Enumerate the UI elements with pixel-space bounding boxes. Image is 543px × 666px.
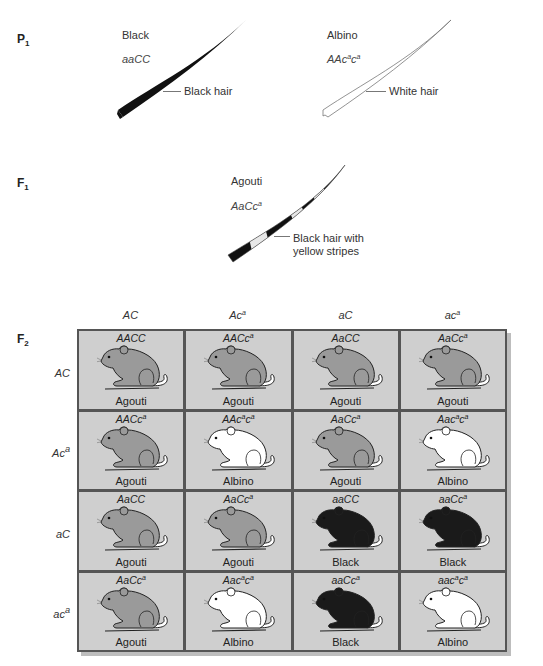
cell-phenotype: Agouti — [294, 395, 398, 407]
row-header-gamete-2: Aca — [30, 444, 70, 459]
agouti-mouse-icon — [419, 343, 495, 393]
punnett-cell: aacaca Albino — [401, 573, 505, 651]
punnett-cell: AaCC Agouti — [79, 492, 183, 570]
punnett-cell: aaCC Black — [294, 492, 398, 570]
punnett-cell: AaCca Agouti — [401, 331, 505, 409]
col-header-gamete-2: Aca — [184, 309, 291, 321]
generation-label-f2: F2 — [17, 332, 29, 348]
white-hair-icon — [320, 15, 455, 120]
agouti-mouse-icon — [97, 424, 173, 474]
punnett-cell: Aacaca Albino — [186, 573, 290, 651]
cell-phenotype: Albino — [401, 475, 505, 487]
cell-phenotype: Albino — [401, 636, 505, 648]
agouti-mouse-icon — [204, 504, 280, 554]
black-mouse-icon — [312, 585, 388, 635]
cell-phenotype: Black — [294, 556, 398, 568]
generation-label-p1: P1 — [17, 32, 29, 48]
p1-white-hair-label: White hair — [389, 85, 439, 98]
black-hair-icon — [115, 15, 250, 120]
black-mouse-icon — [419, 504, 495, 554]
agouti-mouse-icon — [97, 504, 173, 554]
cell-phenotype: Agouti — [186, 556, 290, 568]
punnett-cell: Aacaca Albino — [401, 412, 505, 490]
agouti-mouse-icon — [97, 343, 173, 393]
col-header-gamete-3: aC — [292, 309, 399, 321]
black-mouse-icon — [312, 504, 388, 554]
row-header-gamete-1: AC — [30, 364, 70, 379]
cell-phenotype: Agouti — [79, 395, 183, 407]
punnett-cell: AaCca Agouti — [79, 573, 183, 651]
albino-mouse-icon — [419, 424, 495, 474]
punnett-cell: AaCca Agouti — [186, 492, 290, 570]
punnett-cell: AAcaca Albino — [186, 412, 290, 490]
agouti-mouse-icon — [312, 343, 388, 393]
cell-phenotype: Agouti — [79, 636, 183, 648]
albino-mouse-icon — [204, 585, 280, 635]
f1-hair-label: Black hair withyellow stripes — [293, 232, 364, 258]
punnett-cell: aaCca Black — [401, 492, 505, 570]
striped-hair-leader-line — [274, 236, 290, 237]
p1-black-hair-label: Black hair — [184, 85, 232, 98]
cell-phenotype: Agouti — [186, 395, 290, 407]
cell-phenotype: Black — [294, 636, 398, 648]
punnett-square: AACC AgoutiAACca AgoutiAaCC AgoutiAaCca … — [77, 329, 507, 652]
punnett-cell: AACca Agouti — [186, 331, 290, 409]
cell-phenotype: Agouti — [401, 395, 505, 407]
agouti-mouse-icon — [204, 343, 280, 393]
agouti-mouse-icon — [312, 424, 388, 474]
col-header-gamete-1: AC — [77, 309, 184, 321]
punnett-cell: AaCC Agouti — [294, 331, 398, 409]
cell-phenotype: Albino — [186, 636, 290, 648]
cell-phenotype: Agouti — [79, 475, 183, 487]
cell-phenotype: Albino — [186, 475, 290, 487]
albino-mouse-icon — [204, 424, 280, 474]
albino-mouse-icon — [419, 585, 495, 635]
black-hair-leader-line — [163, 91, 181, 92]
punnett-cell: aaCca Black — [294, 573, 398, 651]
cell-phenotype: Agouti — [294, 475, 398, 487]
row-header-gamete-3: aC — [30, 525, 70, 540]
punnett-cell: AACC Agouti — [79, 331, 183, 409]
punnett-cell: AACca Agouti — [79, 412, 183, 490]
row-header-gamete-4: aca — [30, 605, 70, 620]
cell-phenotype: Agouti — [79, 556, 183, 568]
generation-label-f1: F1 — [17, 176, 29, 192]
col-header-gamete-4: aca — [399, 309, 506, 321]
cell-phenotype: Black — [401, 556, 505, 568]
white-hair-leader-line — [366, 91, 386, 92]
punnett-cell: AaCca Agouti — [294, 412, 398, 490]
agouti-mouse-icon — [97, 585, 173, 635]
